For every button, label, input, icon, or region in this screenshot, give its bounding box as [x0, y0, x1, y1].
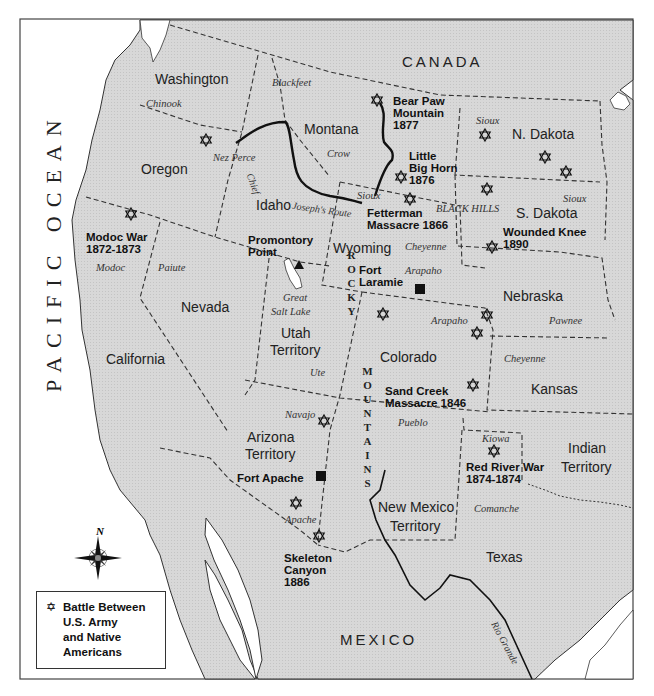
country-label-mexico: MEXICO	[340, 632, 417, 648]
state-label: Washington	[155, 72, 228, 87]
tribe-label: Apache	[285, 514, 317, 525]
tribe-label: Arapaho	[431, 315, 468, 326]
tribe-label: Chinook	[146, 98, 182, 109]
tribe-label: Navajo	[285, 409, 315, 420]
state-label: Territory	[245, 447, 296, 462]
tribe-label: Modoc	[96, 262, 125, 273]
fort-square-icon	[415, 284, 425, 294]
compass-north-label: N	[96, 525, 104, 537]
event-label: Fort Laramie	[359, 264, 403, 288]
tribe-label: Great	[283, 292, 307, 303]
state-label: Montana	[304, 122, 358, 137]
tribe-label: Blackfeet	[272, 77, 311, 88]
state-label: Wyoming	[333, 241, 391, 256]
state-label: Indian	[568, 441, 606, 456]
state-label: New Mexico	[378, 500, 454, 515]
state-label: N. Dakota	[512, 127, 574, 142]
tribe-label: Cheyenne	[405, 241, 446, 252]
tribe-label: Nez Perce	[213, 152, 255, 163]
tribe-label: Kiowa	[482, 433, 509, 444]
state-label: Idaho	[256, 198, 291, 213]
legend-text: Battle Between U.S. Army and Native Amer…	[63, 600, 145, 660]
event-label: Fort Apache	[237, 472, 304, 484]
event-label: Modoc War 1872-1873	[86, 231, 148, 255]
state-label: Kansas	[531, 382, 578, 397]
state-label: Texas	[486, 550, 523, 565]
event-label: Wounded Knee 1890	[503, 226, 586, 250]
tribe-label: Arapaho	[405, 265, 442, 276]
tribe-label: Sioux	[563, 193, 586, 204]
tribe-label: Comanche	[474, 503, 519, 514]
state-label: Territory	[270, 343, 321, 358]
state-label: California	[106, 352, 165, 367]
event-label: Sand Creek Massacre 1846	[385, 385, 466, 409]
event-label: Bear Paw Mountain 1877	[393, 95, 445, 131]
event-label: Skeleton Canyon 1886	[284, 552, 332, 588]
battle-star-icon: ✡	[46, 600, 56, 614]
tribe-label: Pawnee	[549, 315, 582, 326]
map-legend: ✡ Battle Between U.S. Army and Native Am…	[36, 591, 166, 669]
state-label: Nebraska	[503, 289, 563, 304]
ocean-label: PACIFIC OCEAN	[42, 111, 65, 392]
tribe-label: Crow	[327, 148, 350, 159]
tribe-label: Pueblo	[398, 417, 428, 428]
rocky-label: ROCKY	[346, 248, 358, 318]
state-label: Territory	[390, 519, 441, 534]
event-label: Red River War 1874-1874	[466, 461, 544, 485]
fort-square-icon	[316, 471, 326, 481]
tribe-label: Sioux	[357, 190, 380, 201]
state-label: Oregon	[141, 162, 188, 177]
tribe-label: Ute	[310, 367, 325, 378]
tribe-label: Salt Lake	[271, 306, 310, 317]
event-label: Little Big Horn 1876	[409, 150, 458, 186]
state-label: Nevada	[181, 300, 229, 315]
state-label: Territory	[561, 460, 612, 475]
state-label: S. Dakota	[516, 206, 577, 221]
state-label: Utah	[281, 326, 311, 341]
tribe-label: Sioux	[476, 115, 499, 126]
state-label: Colorado	[380, 350, 437, 365]
country-label-canada: CANADA	[402, 54, 483, 70]
tribe-label: Cheyenne	[504, 353, 545, 364]
state-label: Arizona	[247, 430, 294, 445]
mountains-label: MOUNTAINS	[362, 364, 374, 490]
event-label: Promontory Point	[248, 234, 313, 258]
event-label: Fetterman Massacre 1866	[367, 207, 448, 231]
tribe-label: Paiute	[158, 262, 185, 273]
